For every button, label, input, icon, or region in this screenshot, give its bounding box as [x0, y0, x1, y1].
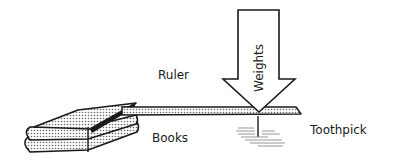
toothpick-icon	[236, 116, 285, 146]
ruler-label: Ruler	[158, 68, 189, 82]
ruler-experiment-diagram: Ruler Books Toothpick Weights	[0, 0, 398, 162]
toothpick-label: Toothpick	[310, 123, 367, 137]
weights-label: Weights	[252, 44, 266, 92]
ruler-icon	[122, 107, 301, 115]
diagram-canvas	[0, 0, 398, 162]
books-label: Books	[152, 131, 188, 145]
